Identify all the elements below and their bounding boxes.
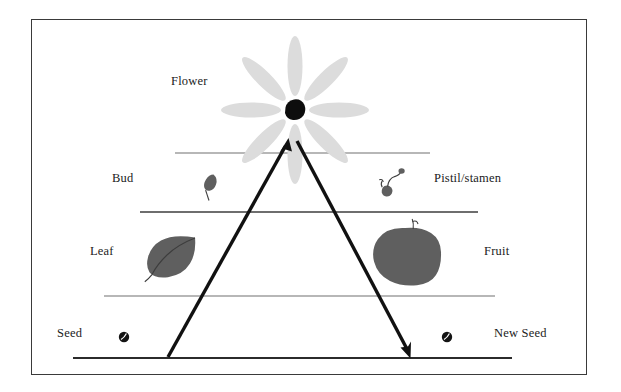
divider-line-leaf-seed — [104, 295, 495, 297]
label-leaf: Leaf — [90, 245, 114, 258]
label-bud: Bud — [112, 172, 133, 185]
divider-line-seed-base — [73, 357, 512, 359]
label-flower: Flower — [171, 75, 208, 88]
divider-line-bud-leaf — [140, 211, 478, 213]
label-fruit: Fruit — [484, 245, 509, 258]
label-new-seed: New Seed — [494, 327, 547, 340]
diagram-page: Flower Bud Pistil/stamen Leaf Fruit Seed… — [0, 0, 621, 392]
figure-border — [31, 19, 587, 375]
divider-line-flower-bud — [175, 152, 430, 154]
label-seed: Seed — [57, 327, 82, 340]
label-pistil-stamen: Pistil/stamen — [434, 172, 501, 185]
